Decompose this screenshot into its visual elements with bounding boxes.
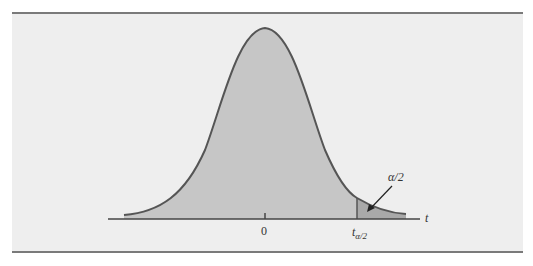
axis-variable-label: t bbox=[425, 211, 428, 226]
zero-tick-label: 0 bbox=[261, 224, 267, 239]
distribution-body-area bbox=[124, 28, 357, 219]
critical-value-label: tα/2 bbox=[352, 225, 367, 241]
tail-area-label: α/2 bbox=[388, 170, 404, 185]
annotation-arrow bbox=[370, 186, 392, 209]
